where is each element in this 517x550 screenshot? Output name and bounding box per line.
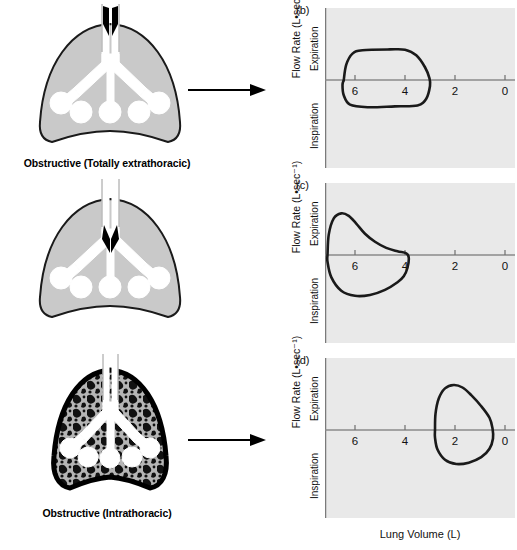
- expiration-label-d: Expiration: [309, 368, 320, 430]
- inspiration-label-d: Inspiration: [309, 442, 320, 510]
- chart-panel-b: (b) Flow Rate (L•sec⁻¹) Expiration Inspi…: [268, 0, 517, 175]
- expiration-label-b: Expiration: [309, 18, 320, 80]
- x-tick-label: 4: [402, 85, 409, 97]
- right-arrow-icon: [188, 80, 268, 100]
- lung-svg-intrathoracic: [30, 177, 190, 327]
- lung-diagram-restrictive: Restrictive: [0, 350, 200, 525]
- chart-panel-c: (c) Flow Rate (L•sec⁻¹) Expiration Inspi…: [268, 175, 517, 350]
- expiration-label-c: Expiration: [309, 193, 320, 255]
- x-tick-label: 4: [402, 435, 409, 447]
- lung-diagram-intrathoracic: Obstructive (Intrathoracic): [0, 175, 200, 350]
- inspiration-label-b: Inspiration: [309, 92, 320, 160]
- figure-row-restrictive: Restrictive (d) Flow Rate (L•sec⁻¹) Expi…: [0, 350, 517, 550]
- x-tick-label: 2: [452, 85, 458, 97]
- arrow-extrathoracic: [188, 80, 268, 100]
- figure-row-intrathoracic: Obstructive (Intrathoracic) (c) Flow Rat…: [0, 175, 517, 350]
- flow-volume-loop-b: 6420: [325, 8, 515, 168]
- lung-diagram-extrathoracic: Obstructive (Totally extrathoracic): [0, 0, 200, 175]
- x-tick-label: 0: [502, 435, 508, 447]
- x-tick-label: 0: [502, 260, 508, 272]
- x-tick-label: 6: [352, 260, 358, 272]
- flow-volume-loop-d: 6420: [325, 358, 515, 518]
- x-tick-label: 6: [352, 435, 358, 447]
- y-axis-title-d: Flow Rate (L•sec⁻¹): [290, 322, 302, 442]
- inspiration-label-c: Inspiration: [309, 267, 320, 335]
- lung-svg-restrictive: [30, 352, 190, 502]
- flow-volume-loop-c: 6420: [325, 183, 515, 343]
- x-axis-title: Lung Volume (L): [325, 528, 515, 540]
- y-axis-title-c: Flow Rate (L•sec⁻¹): [290, 147, 302, 267]
- caption-extrathoracic: Obstructive (Totally extrathoracic): [0, 157, 222, 169]
- x-tick-label: 6: [352, 85, 358, 97]
- x-tick-label: 2: [452, 435, 458, 447]
- y-axis-title-b: Flow Rate (L•sec⁻¹): [290, 0, 302, 92]
- figure-row-extrathoracic: Obstructive (Totally extrathoracic) (b) …: [0, 0, 517, 175]
- lung-svg-extrathoracic: [30, 2, 190, 152]
- x-tick-label: 0: [502, 85, 508, 97]
- x-tick-label: 2: [452, 260, 458, 272]
- chart-panel-d: (d) Flow Rate (L•sec⁻¹) Expiration Inspi…: [268, 350, 517, 525]
